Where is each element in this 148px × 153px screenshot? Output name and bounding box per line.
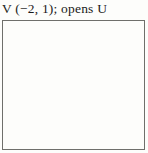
figure: V (−2, 1); opens U (0, 0, 148, 153)
plot-frame (2, 20, 145, 150)
figure-caption: V (−2, 1); opens U (2, 1, 107, 17)
plot-canvas (3, 21, 144, 149)
